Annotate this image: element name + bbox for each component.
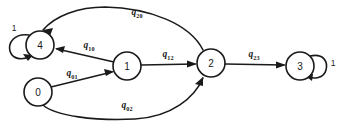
edge-q20: q20 — [43, 7, 203, 50]
state-transition-diagram: q20 q10 q01 q12 — [0, 0, 339, 125]
edge-q23-label: q23 — [249, 49, 260, 60]
node-1-label: 1 — [124, 61, 130, 72]
edge-q01: q01 — [51, 68, 114, 87]
edge-q23-label-sub: 23 — [253, 53, 259, 60]
node-4[interactable]: 4 — [26, 31, 54, 59]
edge-q01-path — [51, 72, 112, 87]
edge-q01-label: q01 — [67, 68, 78, 79]
edge-q20-label-sub: 20 — [136, 11, 142, 18]
edge-q10-label: q10 — [84, 40, 95, 51]
edge-q01-label-sub: 01 — [71, 72, 77, 79]
edge-q02-arrowhead — [195, 77, 203, 86]
node-0-label: 0 — [35, 87, 41, 98]
edge-q02-path — [43, 78, 203, 119]
node-2-label: 2 — [208, 58, 214, 69]
edge-q10-path — [57, 49, 114, 62]
edge-q12: q12 — [141, 49, 197, 68]
edge-q12-label-sub: 12 — [167, 53, 173, 60]
edge-q10: q10 — [55, 40, 114, 62]
edge-q23-path — [225, 64, 284, 65]
edge-q12-arrowhead — [187, 61, 197, 68]
node-2[interactable]: 2 — [197, 49, 225, 77]
edge-q20-label: q20 — [132, 7, 143, 18]
edge-q12-path — [141, 64, 195, 65]
edge-q20-path — [43, 7, 203, 50]
edge-q10-label-sub: 10 — [88, 44, 94, 51]
edge-q23: q23 — [225, 49, 286, 69]
node-3[interactable]: 3 — [286, 52, 314, 80]
self-loop-node-4-label: 1 — [12, 23, 17, 33]
node-1[interactable]: 1 — [113, 52, 141, 80]
node-3-label: 3 — [297, 61, 303, 72]
node-0[interactable]: 0 — [24, 78, 52, 106]
edge-q02-label-sub: 02 — [126, 104, 132, 111]
state-diagram-container: q20 q10 q01 q12 — [0, 0, 339, 125]
edge-q02-label: q02 — [122, 100, 133, 111]
node-4-label: 4 — [37, 40, 43, 51]
edge-q12-label: q12 — [163, 49, 174, 60]
edge-q23-arrowhead — [276, 62, 286, 69]
self-loop-node-3-label: 1 — [331, 58, 336, 68]
